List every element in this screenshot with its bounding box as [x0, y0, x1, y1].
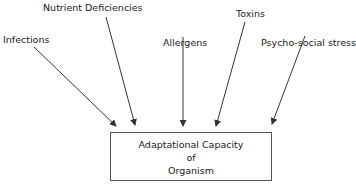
target-line-1: Adaptational Capacity: [111, 138, 271, 151]
arrow-infections: [34, 47, 116, 126]
arrow-toxins: [216, 22, 245, 126]
source-allergens: Allergens: [163, 38, 207, 48]
source-nutrient-deficiencies: Nutrient Deficiencies: [43, 3, 143, 13]
source-toxins: Toxins: [236, 9, 265, 19]
source-infections: Infections: [3, 35, 49, 45]
target-box-adaptational-capacity: Adaptational Capacity of Organism: [110, 132, 272, 181]
arrow-psycho-social-stress: [272, 36, 305, 124]
target-line-3: Organism: [111, 164, 271, 177]
arrow-nutrient-deficiencies: [106, 17, 135, 125]
source-psycho-social-stress: Psycho-social stress: [261, 38, 356, 48]
target-line-2: of: [111, 151, 271, 164]
